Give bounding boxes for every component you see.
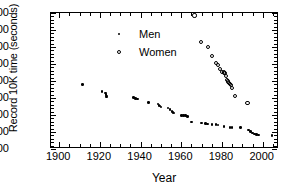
data-point-men (190, 121, 193, 124)
data-point-men (271, 134, 274, 137)
x-tick-label: 1900 (36, 151, 80, 162)
plot-area: Men Women (50, 12, 278, 148)
data-point-men (81, 83, 84, 86)
legend-label-women: Women (139, 46, 177, 58)
y-tick-label: 1900 (0, 75, 9, 85)
data-point-men (231, 126, 234, 129)
data-point-men (257, 134, 260, 137)
legend-label-men: Men (139, 28, 160, 40)
y-tick-label: 1500 (0, 143, 9, 153)
data-point-women (206, 45, 210, 49)
y-tick-label: 2000 (0, 58, 9, 68)
y-tick-label: 1700 (0, 109, 9, 119)
data-point-men (173, 112, 176, 115)
x-axis-label: Year (50, 171, 278, 185)
data-point-men (239, 126, 242, 129)
x-tick-label: 1960 (158, 151, 202, 162)
data-point-women (210, 54, 214, 58)
x-tick-label: 2000 (240, 151, 284, 162)
data-point-men (217, 124, 220, 127)
data-point-men (186, 115, 189, 118)
data-point-men (160, 106, 163, 109)
y-tick-label: 1800 (0, 92, 9, 102)
data-point-men (101, 90, 104, 93)
filled-circle-icon (118, 33, 121, 36)
data-point-women (192, 13, 196, 17)
chart-legend: Men Women (113, 27, 203, 63)
data-point-men (223, 125, 226, 128)
data-point-women (245, 101, 249, 105)
data-point-men (105, 96, 108, 99)
open-circle-icon (117, 50, 121, 54)
chart-figure: Record 10K time (seconds) Year 150016001… (0, 0, 291, 190)
y-tick-label: 2100 (0, 41, 9, 51)
y-tick-label: 2200 (0, 24, 9, 34)
x-tick-label: 1980 (199, 151, 243, 162)
legend-item-men: Men (113, 27, 203, 45)
y-tick-label: 2300 (0, 7, 9, 17)
data-point-men (136, 98, 139, 101)
y-axis-label: Record 10K time (seconds) (7, 0, 19, 143)
y-tick-label: 1600 (0, 126, 9, 136)
data-point-men (206, 123, 209, 126)
data-point-men (200, 122, 203, 125)
data-point-women (233, 94, 237, 98)
data-point-men (211, 123, 214, 126)
x-tick-label: 1920 (77, 151, 121, 162)
x-tick-label: 1940 (118, 151, 162, 162)
legend-item-women: Women (113, 45, 203, 63)
data-point-men (147, 101, 150, 104)
data-point-women (230, 86, 234, 90)
